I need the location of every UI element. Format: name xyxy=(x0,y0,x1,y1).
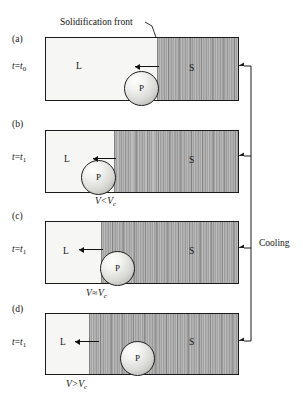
panel-d-liquid-letter: L xyxy=(60,337,66,347)
panel-a-particle: P xyxy=(124,71,159,106)
panel-b-solid-letter: S xyxy=(189,155,194,165)
panel-b-particle-label: P xyxy=(96,173,101,182)
panel-b-solid-region xyxy=(114,131,238,192)
panel-c-particle: P xyxy=(100,251,135,286)
panel-time-a: t=t0 xyxy=(12,61,26,73)
panel-letter-c: (c) xyxy=(12,211,23,221)
panel-d-solid-region xyxy=(89,314,238,374)
figure-canvas: Solidification front Cooling (a) t=t0 L … xyxy=(0,0,303,409)
panel-c-solid-letter: S xyxy=(189,246,194,256)
panel-a-solid-letter: S xyxy=(189,63,194,73)
panel-c-growth-direction-arrow xyxy=(79,249,103,250)
panel-b-velocity-sub: c xyxy=(113,200,116,208)
time-sub-d: 1 xyxy=(23,341,27,349)
panel-a-particle-label: P xyxy=(139,84,144,93)
time-sub-c: 1 xyxy=(23,248,27,256)
panel-c-velocity-sub: c xyxy=(104,292,107,300)
panel-d-particle: P xyxy=(120,341,155,376)
panel-b-crucible: L S xyxy=(45,130,239,193)
panel-d-liquid-region xyxy=(46,314,89,374)
time-sub-a: 0 xyxy=(23,65,27,73)
panel-letter-d: (d) xyxy=(12,304,23,314)
panel-b-growth-direction-arrow xyxy=(93,158,116,159)
panel-b-velocity-caption: V<Vc xyxy=(95,196,116,208)
panel-d-velocity-caption: V>Vc xyxy=(66,379,87,391)
panel-time-b: t=t1 xyxy=(12,152,26,164)
panel-b-liquid-letter: L xyxy=(64,154,70,164)
panel-d-solid-letter: S xyxy=(189,337,194,347)
panel-c-velocity-lhs: V xyxy=(86,288,92,298)
cooling-label: Cooling xyxy=(259,238,290,248)
panel-d-particle-label: P xyxy=(135,354,140,363)
panel-c-velocity-caption: V≈Vc xyxy=(86,288,107,300)
panel-time-c: t=t1 xyxy=(12,244,26,256)
cooling-bracket xyxy=(238,63,251,345)
panel-c-particle-label: P xyxy=(115,264,120,273)
panel-a-liquid-letter: L xyxy=(76,61,82,71)
panel-d-growth-direction-arrow xyxy=(75,341,99,342)
time-sub-b: 1 xyxy=(23,156,27,164)
panel-b-velocity-lhs: V xyxy=(95,196,101,206)
panel-a-growth-direction-arrow xyxy=(135,66,159,67)
panel-time-d: t=t1 xyxy=(12,337,26,349)
panel-a-solid-region xyxy=(157,38,238,100)
panel-c-liquid-letter: L xyxy=(63,246,69,256)
panel-d-velocity-sub: c xyxy=(84,383,87,391)
panel-letter-a: (a) xyxy=(12,34,23,44)
panel-letter-b: (b) xyxy=(12,119,23,129)
panel-d-velocity-lhs: V xyxy=(66,379,72,389)
panel-b-particle: P xyxy=(81,160,116,195)
panel-c-liquid-region xyxy=(46,222,101,283)
panel-c-crucible: L S xyxy=(45,221,239,284)
